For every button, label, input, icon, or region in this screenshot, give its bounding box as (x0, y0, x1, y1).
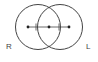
point-left (27, 26, 30, 29)
overlapping-circles-diagram (0, 0, 98, 62)
label-left: R (6, 43, 12, 51)
point-center (48, 26, 51, 29)
point-right (68, 26, 71, 29)
label-right: L (86, 43, 90, 51)
